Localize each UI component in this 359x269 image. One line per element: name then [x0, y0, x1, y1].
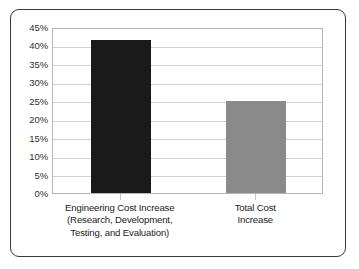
x-axis-label-line: Engineering Cost Increase — [45, 202, 195, 214]
plot-area — [52, 28, 323, 194]
x-axis-label-line: Testing, and Evaluation) — [45, 227, 195, 239]
x-axis-label-line: Total Cost — [180, 202, 330, 214]
y-axis-tick-label: 30% — [18, 78, 48, 88]
y-axis-tick-label: 0% — [18, 189, 48, 199]
x-axis-tick — [255, 194, 256, 200]
x-axis-category-label: Total CostIncrease — [180, 202, 330, 227]
x-axis-tick — [120, 194, 121, 200]
x-axis-label-line: (Research, Development, — [45, 214, 195, 226]
x-axis-label-line: Increase — [180, 214, 330, 226]
y-axis-tick-label: 35% — [18, 60, 48, 70]
y-axis-tick-label: 40% — [18, 41, 48, 51]
bars-layer — [53, 29, 322, 193]
y-axis-tick-label: 20% — [18, 115, 48, 125]
x-axis-category-label: Engineering Cost Increase(Research, Deve… — [45, 202, 195, 239]
y-axis-tick-label: 45% — [18, 23, 48, 33]
y-axis-tick-label: 10% — [18, 152, 48, 162]
chart-figure: 45%40%35%30%25%20%15%10%5%0% Engineering… — [10, 9, 346, 257]
bar[interactable] — [226, 101, 286, 193]
y-axis: 45%40%35%30%25%20%15%10%5%0% — [17, 28, 48, 194]
y-axis-tick-label: 5% — [18, 171, 48, 181]
y-axis-tick-label: 15% — [18, 134, 48, 144]
y-axis-tick-label: 25% — [18, 97, 48, 107]
chart-plot-wrapper: 45%40%35%30%25%20%15%10%5%0% Engineering… — [11, 10, 347, 258]
bar[interactable] — [91, 40, 151, 193]
